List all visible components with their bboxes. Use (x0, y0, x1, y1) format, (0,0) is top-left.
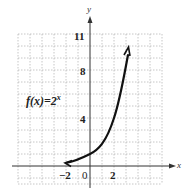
x-tick-0: 0 (82, 170, 88, 181)
function-label: f(x)=2x (26, 93, 61, 109)
x-tick-neg2: −2 (59, 170, 71, 181)
y-tick-11: 11 (74, 31, 84, 42)
x-axis-label: x (177, 160, 181, 170)
exponential-curve (66, 55, 128, 163)
y-axis-label: y (87, 4, 91, 14)
x-axis-arrow-icon (169, 164, 176, 169)
y-axis-arrow-icon (88, 16, 93, 23)
y-tick-8: 8 (80, 66, 86, 77)
function-label-exponent: x (57, 93, 61, 102)
function-label-base: f(x)=2 (26, 94, 57, 108)
y-tick-4: 4 (80, 114, 86, 125)
x-tick-2: 2 (110, 170, 116, 181)
